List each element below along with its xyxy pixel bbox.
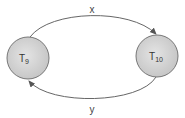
node-t9-subscript: 9: [25, 58, 29, 65]
node-t9: T9: [7, 37, 49, 79]
node-t10-subscript: 10: [155, 56, 163, 63]
edge-y: y: [29, 77, 156, 115]
node-t10: T10: [136, 35, 178, 77]
edge-x: x: [30, 4, 156, 37]
edge-label-y: y: [90, 104, 95, 115]
state-diagram: x y T9 T10: [0, 0, 185, 118]
edge-label-x: x: [90, 4, 95, 15]
